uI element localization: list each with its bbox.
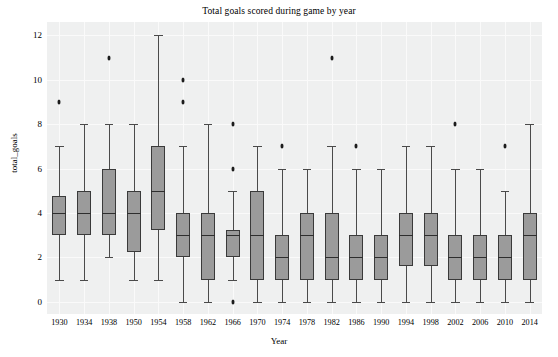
y-tick-label: 6 <box>0 164 42 174</box>
x-tick-label: 2014 <box>510 318 550 327</box>
y-tick-label: 8 <box>0 119 42 129</box>
boxplot-figure: Total goals scored during game by year t… <box>0 0 558 357</box>
y-tick-label: 12 <box>0 30 42 40</box>
y-tick-label: 0 <box>0 297 42 307</box>
axes-labels-layer: total_goals Year 02468101219301934193819… <box>0 0 558 357</box>
y-tick-label: 4 <box>0 208 42 218</box>
x-axis-label: Year <box>0 336 558 346</box>
y-tick-label: 10 <box>0 75 42 85</box>
y-tick-label: 2 <box>0 252 42 262</box>
y-axis-label: total_goals <box>9 123 19 183</box>
